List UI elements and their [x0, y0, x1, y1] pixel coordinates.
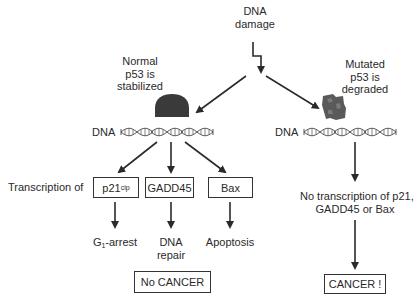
- result-cancer: CANCER !: [324, 274, 386, 294]
- mutated-p53-status: Mutated p53 is degraded: [336, 58, 394, 96]
- arrow-to-bax: [185, 142, 225, 172]
- arrow-to-normal: [197, 76, 246, 112]
- normal-p53-status: Normal p53 is stabilized: [112, 55, 168, 93]
- dna-helix-left-icon: [121, 128, 213, 136]
- outcome-apoptosis: Apoptosis: [204, 236, 256, 249]
- outcome-dna-repair: DNA repair: [151, 236, 191, 261]
- arrow-to-mutated: [266, 76, 318, 108]
- diagram-graphics: [0, 0, 415, 298]
- no-transcription-note: No transcription of p21, GADD45 or Bax: [300, 190, 410, 215]
- gene-box-p21: p21cip: [93, 177, 139, 198]
- result-no-cancer: No CANCER: [134, 271, 211, 293]
- dna-helix-right-icon: [304, 128, 396, 136]
- p53-degraded-protein-icon: [322, 94, 346, 120]
- outcome-g1-arrest: G1-arrest: [90, 236, 140, 249]
- lightning-bolt-icon: [253, 42, 265, 74]
- transcription-of-label: Transcription of: [8, 181, 83, 194]
- arrow-to-p21: [119, 142, 157, 172]
- gene-box-gadd45: GADD45: [145, 177, 194, 198]
- dna-damage-label: DNA damage: [232, 5, 278, 30]
- gene-box-bax: Bax: [208, 177, 253, 198]
- dna-label-left: DNA: [92, 126, 115, 139]
- dna-label-right: DNA: [275, 126, 298, 139]
- p53-normal-protein-icon: [155, 94, 189, 117]
